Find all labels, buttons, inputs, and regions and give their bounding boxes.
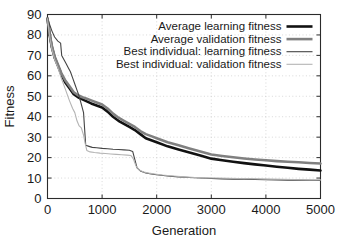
y-axis-title: Fitness	[2, 85, 17, 127]
y-tick-label: 70	[27, 48, 41, 63]
fitness-vs-generation-chart: 0102030405060708090010002000300040005000…	[0, 0, 340, 248]
x-tick-label: 2000	[142, 202, 171, 217]
y-tick-label: 30	[27, 130, 41, 145]
y-tick-label: 80	[27, 27, 41, 42]
legend-label-2: Best individual: learning fitness	[124, 45, 282, 57]
x-tick-label: 5000	[306, 202, 335, 217]
chart-canvas: 0102030405060708090010002000300040005000…	[0, 0, 340, 248]
y-tick-label: 10	[27, 171, 41, 186]
y-tick-label: 20	[27, 150, 41, 165]
x-tick-label: 1000	[88, 202, 117, 217]
y-tick-label: 50	[27, 89, 41, 104]
y-tick-label: 90	[27, 7, 41, 22]
legend-label-0: Average learning fitness	[158, 20, 281, 32]
legend-label-3: Best individual: validation fitness	[116, 58, 282, 70]
x-tick-label: 4000	[251, 202, 280, 217]
y-tick-label: 40	[27, 109, 41, 124]
x-tick-label: 3000	[197, 202, 226, 217]
legend-label-1: Average validation fitness	[151, 33, 282, 45]
x-axis-title: Generation	[152, 223, 216, 238]
y-tick-label: 60	[27, 68, 41, 83]
x-tick-label: 0	[44, 202, 51, 217]
y-tick-label: 0	[34, 191, 41, 206]
